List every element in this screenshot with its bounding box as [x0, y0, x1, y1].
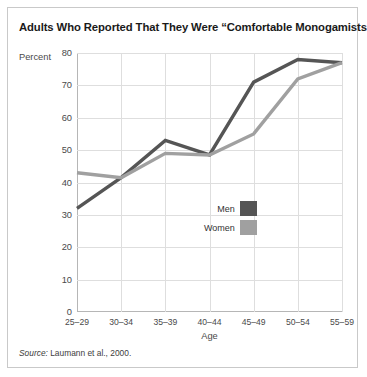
- x-axis-tick-label: 55–59: [330, 317, 354, 327]
- gridline-vertical: [342, 53, 343, 312]
- y-axis-tick-label: 20: [62, 242, 72, 252]
- source-citation: Laumann et al., 2000.: [48, 348, 131, 358]
- x-axis-tick-label: 30–34: [109, 317, 133, 327]
- legend-swatch-icon: [240, 220, 257, 235]
- y-axis-tick-label: 0: [67, 307, 72, 317]
- y-axis-tick-label: 40: [62, 178, 72, 188]
- x-axis-tick-label: 35–39: [153, 317, 177, 327]
- x-axis-tick-label: 50–54: [286, 317, 310, 327]
- series-line-women: [77, 63, 342, 178]
- legend-label: Women: [204, 223, 235, 233]
- y-axis-title: Percent: [19, 52, 51, 62]
- figure-panel: Adults Who Reported That They Were “Comf…: [7, 7, 358, 368]
- series-lines: [77, 53, 342, 312]
- x-axis-title: Age: [77, 331, 342, 341]
- x-axis-tick-label: 40–44: [198, 317, 222, 327]
- y-axis-tick-label: 50: [62, 145, 72, 155]
- legend-label: Men: [217, 204, 235, 214]
- legend: MenWomen: [204, 201, 257, 235]
- legend-item-men: Men: [204, 201, 257, 216]
- legend-item-women: Women: [204, 220, 257, 235]
- y-axis-tick-label: 80: [62, 48, 72, 58]
- y-axis-tick-label: 30: [62, 210, 72, 220]
- x-axis-tick-label: 45–49: [242, 317, 266, 327]
- series-line-men: [77, 59, 342, 208]
- y-axis-tick-label: 10: [62, 275, 72, 285]
- legend-swatch-icon: [240, 201, 257, 216]
- plot-area: 01020304050607080 25–2930–3435–3940–4445…: [77, 53, 342, 312]
- x-axis-tick-label: 25–29: [65, 317, 89, 327]
- y-axis-tick-label: 60: [62, 113, 72, 123]
- source-note: Source: Laumann et al., 2000.: [19, 348, 131, 358]
- y-axis-tick-label: 70: [62, 80, 72, 90]
- source-label: Source:: [19, 348, 48, 358]
- page-title: Adults Who Reported That They Were “Comf…: [19, 21, 349, 33]
